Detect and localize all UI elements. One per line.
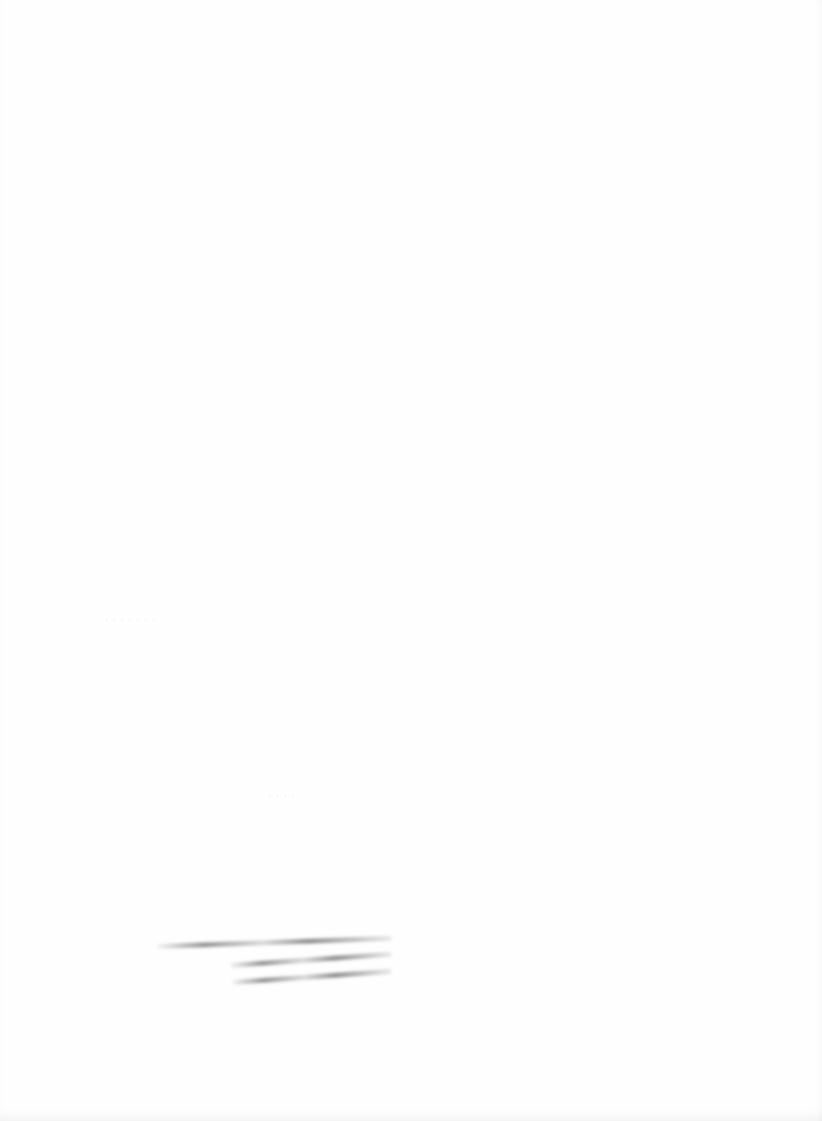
bleed-through-mark: · · · · (268, 790, 296, 801)
illegible-handwriting-line (230, 952, 392, 968)
illegible-handwriting-line (157, 936, 392, 949)
bleed-through-mark: · · · · · · · (105, 614, 156, 625)
scanned-page: · · · · · · · · · · · (0, 0, 822, 1121)
illegible-handwriting-line (232, 969, 392, 985)
